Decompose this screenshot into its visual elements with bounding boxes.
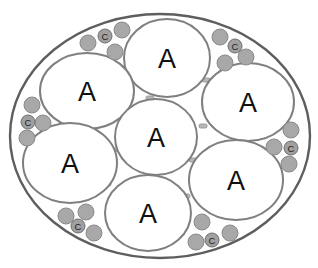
- cell-label-a: A: [147, 123, 165, 153]
- cell-label-c: C: [209, 235, 216, 246]
- small-cell: [283, 122, 299, 138]
- cell-label-c: C: [102, 31, 109, 42]
- cell-cross-section-diagram: AAAAAAA CCCCCC: [0, 0, 318, 268]
- large-cell-a3: A: [202, 63, 294, 141]
- cell-label-a: A: [139, 199, 157, 229]
- small-cell: [188, 234, 204, 250]
- small-cell: [194, 214, 210, 230]
- small-cell: [24, 97, 40, 113]
- cell-label-c: C: [232, 41, 239, 52]
- cell-label-a: A: [61, 149, 79, 179]
- cell-label-a: A: [227, 166, 245, 196]
- small-cell: [35, 115, 51, 131]
- large-cell-a1: A: [124, 19, 210, 97]
- small-cell: [281, 156, 297, 172]
- large-cell-a7: A: [105, 175, 191, 251]
- cell-label-c: C: [25, 117, 32, 128]
- cell-label-a: A: [239, 88, 257, 118]
- small-cell: [266, 139, 282, 155]
- cell-label-a: A: [158, 44, 176, 74]
- small-cell: [238, 49, 254, 65]
- small-cell: [78, 204, 94, 220]
- junction-marker: [199, 124, 207, 128]
- small-cell: [19, 130, 35, 146]
- small-cell: [86, 225, 102, 241]
- small-cell: [222, 225, 238, 241]
- small-cell: [107, 44, 123, 60]
- small-cell: [212, 29, 228, 45]
- small-cell: [58, 208, 74, 224]
- small-cell: [217, 55, 233, 71]
- cell-label-a: A: [78, 77, 96, 107]
- cell-label-c: C: [75, 221, 82, 232]
- large-cell-a5: A: [23, 123, 117, 203]
- small-cell: [114, 22, 130, 38]
- cell-label-c: C: [288, 143, 295, 154]
- small-cell: [80, 35, 96, 51]
- large-cell-a4: A: [115, 99, 197, 175]
